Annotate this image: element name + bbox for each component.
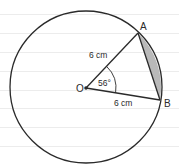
label-radius-OA: 6 cm	[89, 50, 107, 60]
diagram-canvas: O A B 6 cm 6 cm 56°	[0, 0, 179, 166]
label-B: B	[164, 98, 171, 109]
center-point	[84, 86, 88, 90]
label-angle: 56°	[98, 78, 111, 88]
label-radius-OB: 6 cm	[114, 98, 132, 108]
ruled-lines	[0, 15, 179, 147]
label-A: A	[140, 21, 147, 32]
radius-OA	[86, 33, 138, 88]
label-O: O	[76, 83, 84, 94]
